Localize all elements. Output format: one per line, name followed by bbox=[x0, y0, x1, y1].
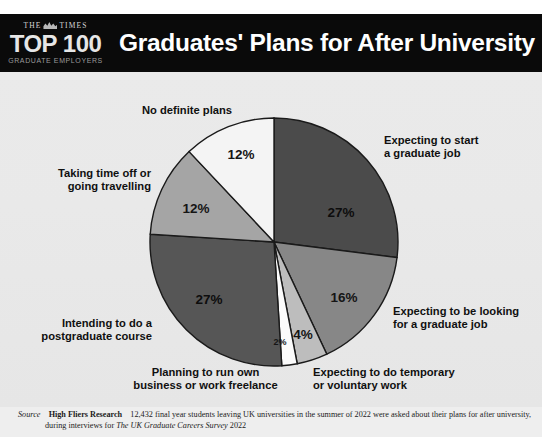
survey-year: 2022 bbox=[228, 421, 246, 430]
source-note: Source High Fliers Research 12,432 final… bbox=[18, 410, 534, 431]
infographic-page: THE TIMES TOP 100 GRADUATE EMPLOYERS Gra… bbox=[0, 0, 542, 441]
source-organisation: High Fliers Research bbox=[49, 410, 123, 419]
value-time-off-travelling: 12% bbox=[182, 201, 209, 216]
footer-bar: Source High Fliers Research 12,432 final… bbox=[0, 407, 542, 441]
pie-chart: 27% 16% 4% 2% 27% 12% 12% No definite pl… bbox=[0, 72, 542, 407]
masthead-prefix: THE bbox=[24, 22, 42, 30]
label-time-off-travelling: Taking time off or going travelling bbox=[26, 167, 151, 193]
pie-slices bbox=[150, 118, 398, 366]
label-expecting-start-graduate-job: Expecting to start a graduate job bbox=[384, 134, 524, 160]
label-expecting-looking-graduate-job: Expecting to be looking for a graduate j… bbox=[393, 305, 542, 331]
logo-ranking: TOP 100 bbox=[10, 31, 102, 56]
label-no-definite-plans: No definite plans bbox=[124, 104, 250, 117]
value-no-definite-plans: 12% bbox=[227, 147, 254, 162]
source-description: 12,432 final year students leaving UK un… bbox=[130, 410, 531, 419]
label-own-business-freelance: Planning to run own business or work fre… bbox=[123, 366, 288, 392]
value-expecting-looking-graduate-job: 16% bbox=[330, 290, 357, 305]
pie-chart-svg bbox=[0, 72, 542, 407]
times-top100-logo: THE TIMES TOP 100 GRADUATE EMPLOYERS bbox=[0, 14, 105, 72]
times-masthead: THE TIMES bbox=[24, 22, 88, 30]
slice-expecting-start-graduate-job[interactable] bbox=[274, 118, 398, 258]
label-temporary-voluntary-work: Expecting to do temporary or voluntary w… bbox=[313, 366, 485, 392]
value-own-business-freelance: 2% bbox=[273, 337, 286, 347]
masthead-suffix: TIMES bbox=[59, 22, 87, 30]
header-bar: THE TIMES TOP 100 GRADUATE EMPLOYERS Gra… bbox=[0, 14, 542, 72]
source-second-line: during interviews for The UK Graduate Ca… bbox=[18, 421, 534, 432]
value-postgraduate-course: 27% bbox=[195, 292, 222, 307]
label-postgraduate-course: Intending to do a postgraduate course bbox=[12, 317, 152, 343]
times-crest-icon bbox=[43, 22, 57, 29]
logo-ranking-subtitle: GRADUATE EMPLOYERS bbox=[8, 57, 103, 65]
bottom-white-margin bbox=[0, 437, 542, 441]
top-white-margin bbox=[0, 0, 542, 14]
page-title: Graduates' Plans for After University in… bbox=[119, 29, 542, 57]
source-label: Source bbox=[18, 410, 40, 419]
value-expecting-start-graduate-job: 27% bbox=[327, 205, 354, 220]
survey-title: The UK Graduate Careers Survey bbox=[116, 421, 228, 430]
source-interview-text: during interviews for bbox=[45, 421, 116, 430]
value-temporary-voluntary-work: 4% bbox=[293, 327, 313, 342]
